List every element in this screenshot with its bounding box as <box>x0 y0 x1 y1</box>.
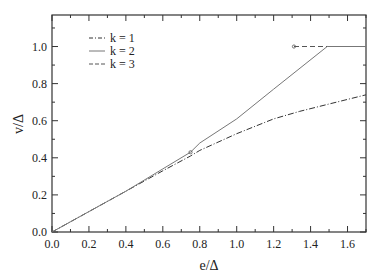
y-tick-label: 1.0 <box>32 40 47 54</box>
data-series <box>52 45 366 232</box>
plot-border <box>52 15 366 232</box>
x-tick-label: 1.0 <box>229 237 244 251</box>
y-tick-label: 0.4 <box>32 151 47 165</box>
y-tick-label: 0.6 <box>32 114 47 128</box>
series-k2 <box>52 47 366 233</box>
x-tick-label: 1.2 <box>266 237 281 251</box>
x-tick-label: 0.8 <box>192 237 207 251</box>
legend-label-k3: k = 3 <box>110 57 135 71</box>
x-axis-label: e/Δ <box>199 258 218 273</box>
plot-frame <box>52 15 366 232</box>
legend: k = 1 k = 2 k = 3 <box>89 31 135 71</box>
y-tick-label: 0.2 <box>32 188 47 202</box>
x-tick-label: 0.2 <box>81 237 96 251</box>
legend-label-k2: k = 2 <box>110 44 135 58</box>
x-tick-label: 1.4 <box>303 237 318 251</box>
x-tick-label: 1.6 <box>340 237 355 251</box>
y-tick-label: 0.0 <box>32 225 47 239</box>
x-tick-label: 0.4 <box>118 237 133 251</box>
legend-label-k1: k = 1 <box>110 31 135 45</box>
series-k1 <box>52 95 366 232</box>
y-axis-label: v/Δ <box>11 114 26 134</box>
y-tick-label: 0.8 <box>32 77 47 91</box>
x-tick-label: 0.0 <box>45 237 60 251</box>
axis-ticks <box>52 15 366 232</box>
line-chart: 0.00.20.40.60.81.01.21.41.60.00.20.40.60… <box>0 0 375 280</box>
tick-labels: 0.00.20.40.60.81.01.21.41.60.00.20.40.60… <box>32 40 355 251</box>
x-tick-label: 0.6 <box>155 237 170 251</box>
